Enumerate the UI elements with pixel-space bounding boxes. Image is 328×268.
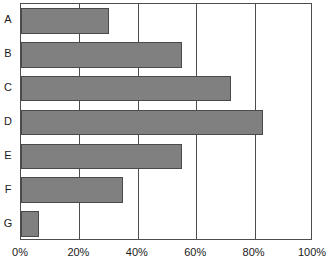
xtick-label-0: 0%	[0, 246, 45, 258]
xtick-label-3: 60%	[170, 246, 220, 258]
bar-f	[21, 177, 123, 203]
bar-e	[21, 144, 182, 170]
xtick-label-4: 80%	[229, 246, 279, 258]
bar-c	[21, 76, 231, 102]
category-label-f: F	[0, 184, 16, 195]
bar-a	[21, 8, 109, 34]
bar-d	[21, 110, 263, 136]
bar-g	[21, 211, 39, 237]
bar-b	[21, 42, 182, 68]
category-label-b: B	[0, 48, 16, 59]
bar-chart: A B C D E F G 0% 20% 40% 60% 80% 100%	[0, 0, 328, 268]
plot-area	[20, 3, 312, 240]
xtick-label-1: 20%	[53, 246, 103, 258]
category-label-g: G	[0, 218, 16, 229]
xtick-label-2: 40%	[112, 246, 162, 258]
category-label-a: A	[0, 14, 16, 25]
xtick-label-5: 100%	[287, 246, 328, 258]
category-label-e: E	[0, 150, 16, 161]
category-label-d: D	[0, 116, 16, 127]
category-label-c: C	[0, 82, 16, 93]
